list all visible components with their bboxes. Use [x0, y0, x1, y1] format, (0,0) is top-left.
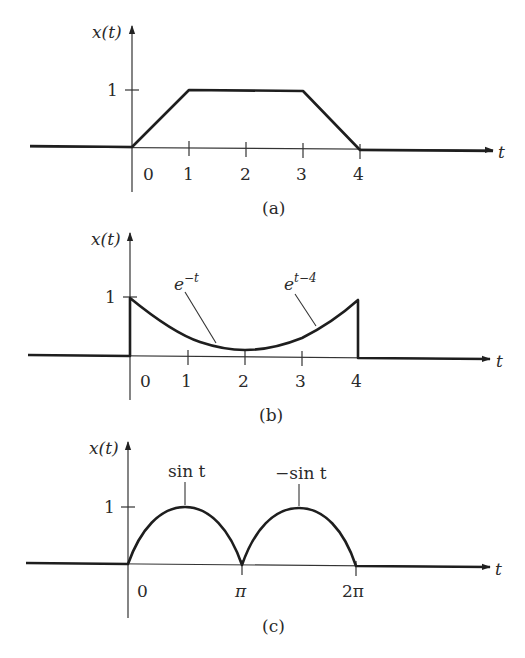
panel-c: sin t −sin t x(t) t 1 0 π 2π (c) [26, 438, 502, 636]
x-tick-label: 3 [296, 164, 307, 184]
x-tick-label: π [234, 581, 247, 601]
annotation-sin-t: sin t [168, 461, 206, 481]
caption-a: (a) [262, 198, 285, 218]
signal-trapezoid [30, 90, 493, 151]
x-tick-label: 4 [351, 371, 362, 391]
y-tick-label: 1 [104, 497, 115, 517]
x-tick-label: 2 [240, 164, 251, 184]
signal-exponential [28, 298, 490, 359]
annotation-e-neg-t: e−t [174, 271, 199, 294]
x-tick-label: 2 [238, 371, 249, 391]
x-axis-label: t [496, 351, 503, 371]
signal-rectified-sine [26, 507, 490, 567]
y-tick-label: 1 [105, 287, 116, 307]
x-axis-label: t [495, 559, 502, 579]
x-axis-label: t [498, 142, 505, 162]
x-tick-label: 3 [295, 371, 306, 391]
annotation-leader [185, 292, 216, 343]
panel-a: x(t) t 1 0 1 2 3 4 (a) [30, 22, 505, 218]
panel-b: e−t et−4 x(t) t 1 0 1 2 3 4 (b) [28, 229, 503, 425]
x-tick-label: 0 [140, 371, 151, 391]
x-tick-label: 0 [143, 164, 154, 184]
y-axis-label: x(t) [89, 438, 119, 458]
annotation-e-t-minus-4: et−4 [284, 271, 317, 294]
caption-c: (c) [262, 616, 285, 636]
y-axis-label: x(t) [91, 229, 121, 249]
annotation-leader [295, 294, 316, 326]
caption-b: (b) [259, 405, 283, 425]
annotation-neg-sin-t: −sin t [275, 463, 327, 483]
x-tick-label: 4 [353, 164, 364, 184]
x-tick-label: 2π [342, 581, 364, 601]
y-tick-label: 1 [107, 80, 118, 100]
x-tick-label: 0 [137, 581, 148, 601]
figure-canvas: x(t) t 1 0 1 2 3 4 (a) e−t et−4 x(t) t 1… [0, 0, 525, 658]
x-tick-label: 1 [181, 371, 192, 391]
x-tick-label: 1 [183, 164, 194, 184]
y-axis-label: x(t) [92, 22, 122, 42]
